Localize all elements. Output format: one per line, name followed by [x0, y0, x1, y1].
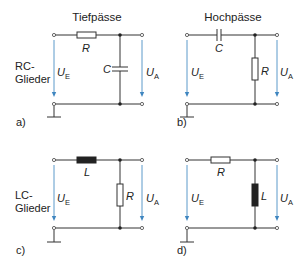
svg-text:A: A: [288, 72, 293, 81]
heading-lowpass: Tiefpässe: [72, 11, 121, 23]
row-label-lc-line2: Glieder: [15, 202, 51, 214]
svg-text:A: A: [154, 72, 159, 81]
circuit-label-b: b): [177, 116, 187, 128]
voltage-input-label: U: [57, 66, 65, 78]
svg-text:L: L: [261, 190, 267, 202]
heading-highpass: Hochpässe: [204, 11, 262, 23]
filter-circuits-diagram: Tiefpässe Hochpässe RC- Glieder LC- Glie…: [0, 0, 305, 272]
component-label: C: [103, 63, 111, 75]
row-label-rc-line2: Glieder: [15, 73, 51, 85]
row-label-rc-line1: RC-: [15, 60, 35, 72]
svg-text:U: U: [280, 192, 288, 204]
circuit-label-d: d): [177, 244, 187, 256]
svg-text:E: E: [65, 72, 70, 81]
svg-text:R: R: [261, 65, 269, 77]
svg-text:R: R: [126, 190, 134, 202]
svg-text:L: L: [84, 166, 90, 178]
svg-text:E: E: [199, 198, 204, 207]
svg-text:A: A: [288, 198, 293, 207]
resistor-symbol: [77, 32, 96, 38]
circuit-b-rc-highpass: C R U E U A b): [177, 29, 293, 128]
svg-text:U: U: [191, 66, 199, 78]
circuit-d-lc-highpass: R L U E U A d): [177, 157, 293, 256]
svg-text:U: U: [146, 192, 154, 204]
component-label: R: [82, 42, 90, 54]
circuit-label-c: c): [16, 244, 25, 256]
svg-text:A: A: [154, 198, 159, 207]
svg-text:E: E: [199, 72, 204, 81]
svg-text:C: C: [215, 42, 223, 54]
svg-text:U: U: [191, 192, 199, 204]
svg-text:R: R: [217, 166, 225, 178]
voltage-output-label: U: [146, 66, 154, 78]
circuit-label-a: a): [16, 116, 26, 128]
svg-text:U: U: [280, 66, 288, 78]
svg-text:E: E: [65, 198, 70, 207]
row-label-lc-line1: LC-: [15, 189, 33, 201]
svg-text:U: U: [57, 192, 65, 204]
